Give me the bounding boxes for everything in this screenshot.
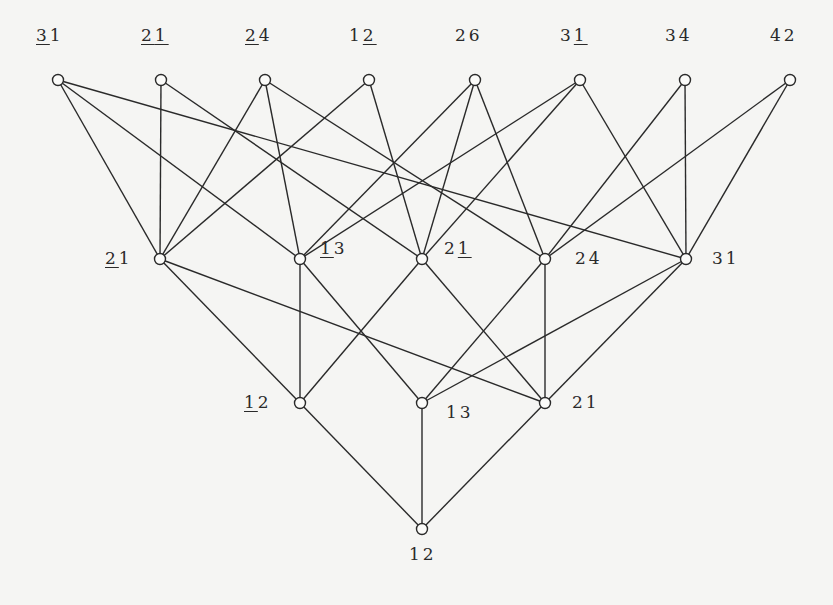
node-t7 [680,75,691,86]
edge-t3-m1 [160,80,265,259]
label-char: 3 [334,238,348,258]
node-label-m3: 21 [444,238,472,258]
node-b1 [295,398,306,409]
node-label-b0: 12 [409,544,437,564]
label-char: 2 [575,248,589,268]
edge-m5-b2 [422,259,686,403]
label-char: 2 [784,25,798,45]
edge-t6-m2 [300,80,580,259]
node-m2 [295,254,306,265]
label-char: 2 [245,25,259,45]
edge-t8-m4 [545,80,790,259]
label-char: 1 [349,25,363,45]
node-label-m4: 24 [575,248,603,268]
label-char: 2 [572,392,586,412]
node-label-t6: 31 [560,25,588,45]
node-label-t7: 34 [665,25,693,45]
label-char: 6 [469,25,483,45]
label-char: 1 [244,392,258,412]
edge-t3-m4 [265,80,545,259]
label-char: 3 [665,25,679,45]
node-m3 [417,254,428,265]
edge-t6-m3 [422,80,580,259]
label-char: 4 [770,25,784,45]
edge-t1-m5 [58,80,686,259]
node-b3 [540,398,551,409]
label-char: 2 [258,392,272,412]
edge-t2-m1 [160,80,161,259]
label-char: 3 [560,25,574,45]
node-t8 [785,75,796,86]
node-m1 [155,254,166,265]
label-char: 2 [363,25,377,45]
edge-t8-m5 [686,80,790,259]
node-label-t3: 24 [245,25,273,45]
nodes [53,75,796,535]
node-m5 [681,254,692,265]
node-t2 [156,75,167,86]
label-char: 1 [586,392,600,412]
edge-t5-m4 [475,80,545,259]
node-m4 [540,254,551,265]
node-t3 [260,75,271,86]
node-label-t8: 42 [770,25,798,45]
edge-t4-m3 [369,80,422,259]
label-char: 1 [726,248,740,268]
label-char: 1 [50,25,64,45]
edge-t1-m1 [58,80,160,259]
node-label-t2: 21 [141,25,169,45]
label-char: 1 [409,544,423,564]
node-label-b3: 21 [572,392,600,412]
diagram-graph [0,0,833,605]
node-label-m5: 31 [712,248,740,268]
edge-b3-b0 [422,403,545,529]
edge-m5-b3 [545,259,686,403]
edge-t2-m3 [161,80,422,259]
label-char: 2 [105,248,119,268]
node-label-b1: 12 [244,392,272,412]
label-char: 2 [444,238,458,258]
label-char: 2 [423,544,437,564]
edges [58,80,790,529]
edge-m1-b3 [160,259,545,403]
node-b0 [417,524,428,535]
node-t6 [575,75,586,86]
label-char: 1 [155,25,169,45]
node-t4 [364,75,375,86]
label-char: 2 [455,25,469,45]
label-char: 3 [712,248,726,268]
edge-t7-m5 [685,80,686,259]
label-char: 1 [446,402,460,422]
edge-m1-b1 [160,259,300,403]
hasse-diagram: 3121241226313442211321243112132112 [0,0,833,605]
label-char: 3 [36,25,50,45]
node-label-m2: 13 [320,238,348,258]
node-t5 [470,75,481,86]
label-char: 4 [679,25,693,45]
node-t1 [53,75,64,86]
label-char: 1 [320,238,334,258]
node-label-m1: 21 [105,248,133,268]
label-char: 1 [574,25,588,45]
label-char: 2 [141,25,155,45]
node-label-t5: 26 [455,25,483,45]
label-char: 4 [589,248,603,268]
label-char: 1 [458,238,472,258]
edge-b1-b0 [300,403,422,529]
node-b2 [417,398,428,409]
edge-t6-m5 [580,80,686,259]
node-label-t4: 12 [349,25,377,45]
node-label-t1: 31 [36,25,64,45]
label-char: 1 [119,248,133,268]
node-label-b2: 13 [446,402,474,422]
edge-t7-m4 [545,80,685,259]
label-char: 3 [460,402,474,422]
label-char: 4 [259,25,273,45]
edge-t3-m2 [265,80,300,259]
